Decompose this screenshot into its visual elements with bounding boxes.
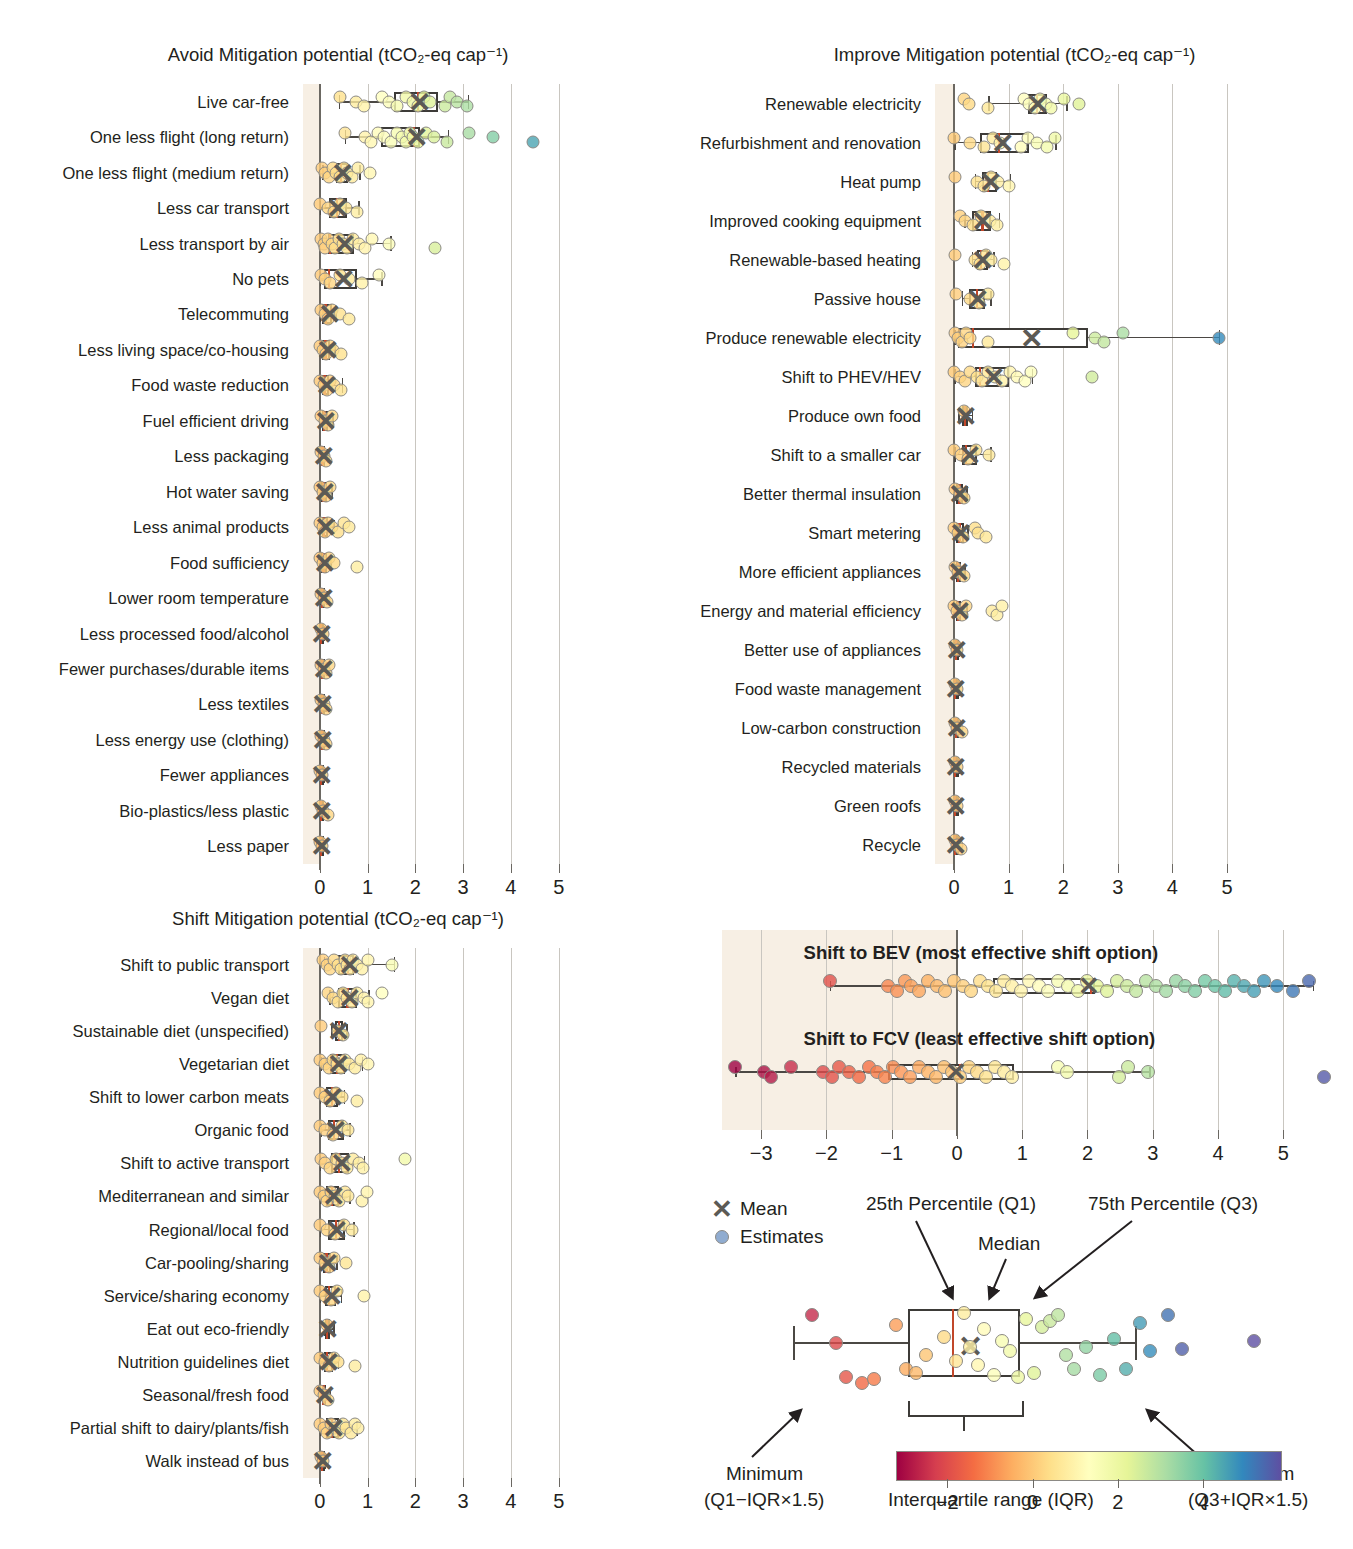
plot-improve: Renewable electricity✕Refurbishment and …	[676, 44, 1353, 904]
row-label-shift-14: Partial shift to dairy/plants/fish	[0, 1419, 289, 1438]
row-label-avoid-7: Less living space/co-housing	[0, 340, 289, 359]
row-label-shift-8: Regional/local food	[0, 1220, 289, 1239]
panel-shift: Shift Mitigation potential (tCO₂-eq cap⁻…	[0, 908, 676, 1528]
row-label-shift-9: Car-pooling/sharing	[0, 1253, 289, 1272]
estimate-point-improve-4-5	[998, 257, 1011, 270]
row-label-shift-0: Shift to public transport	[0, 955, 289, 974]
legend-sample-point-4	[867, 1372, 881, 1386]
xticklabel-improve-4: 4	[1167, 876, 1178, 899]
estimate-point-shift-14-10	[351, 1422, 364, 1435]
row-label-avoid-10: Less packaging	[0, 447, 289, 466]
xtick-shift-0	[320, 1478, 321, 1487]
estimate-point-improve-4-4	[985, 253, 998, 266]
legend-min-label-1: Minimum	[726, 1463, 803, 1485]
estimate-point-shift-11-0	[321, 1318, 334, 1331]
estimate-point-avoid-13-5	[351, 561, 364, 574]
row-label-improve-10: Better thermal insulation	[676, 484, 921, 503]
row-label-shift-13: Seasonal/fresh food	[0, 1386, 289, 1405]
estimate-point-avoid-6-5	[343, 312, 356, 325]
legend-sample-point-29	[1119, 1362, 1133, 1376]
legend-whisker-cap-max	[1135, 1326, 1137, 1360]
estimate-point-improve-6-9	[1117, 327, 1130, 340]
estimate-point-shift-9-3	[328, 1252, 341, 1265]
legend-sample-point-7	[909, 1366, 923, 1380]
legend-whisker-cap-min	[793, 1326, 795, 1360]
row-label-improve-4: Renewable-based heating	[676, 250, 921, 269]
estimate-point-bev-1-28	[1060, 1065, 1074, 1079]
row-label-avoid-14: Lower room temperature	[0, 589, 289, 608]
estimate-point-bev-1-3	[784, 1060, 798, 1074]
legend-sample-point-24	[1059, 1348, 1073, 1362]
legend-sample-point-13	[971, 1358, 985, 1372]
row-label-avoid-5: No pets	[0, 270, 289, 289]
estimate-point-avoid-4-13	[383, 237, 396, 250]
estimate-point-improve-0-8	[1045, 101, 1058, 114]
estimate-point-improve-0-1	[963, 97, 976, 110]
estimate-point-shift-8-4	[346, 1223, 359, 1236]
xtick-shift-1	[368, 1478, 369, 1487]
row-label-improve-7: Shift to PHEV/HEV	[676, 367, 921, 386]
estimate-point-improve-17-1	[951, 760, 964, 773]
xtick-bev--1	[892, 1130, 893, 1139]
estimate-point-improve-15-1	[950, 682, 963, 695]
legend-estimates-label: Estimates	[740, 1226, 823, 1248]
row-label-avoid-0: Live car-free	[0, 92, 289, 111]
estimate-point-avoid-7-5	[335, 348, 348, 361]
xtick-avoid-1	[368, 864, 369, 873]
legend-sample-point-14	[977, 1322, 991, 1336]
estimate-point-shift-6-8	[356, 1161, 369, 1174]
legend-sample-point-25	[1067, 1362, 1081, 1376]
legend-arrow-median	[990, 1259, 1006, 1297]
xtick-shift-2	[415, 1478, 416, 1487]
row-label-avoid-1: One less flight (long return)	[0, 128, 289, 147]
legend-sample-point-30	[1133, 1316, 1147, 1330]
xtick-bev--3	[761, 1130, 762, 1139]
legend-sample-point-15	[987, 1368, 1001, 1382]
whisker-cap-max-improve-8	[972, 408, 974, 422]
xticklabel-improve-2: 2	[1058, 876, 1069, 899]
row-label-improve-6: Produce renewable electricity	[676, 328, 921, 347]
row-label-shift-10: Service/sharing economy	[0, 1286, 289, 1305]
estimate-point-shift-4-5	[351, 1095, 364, 1108]
gridline-avoid-3	[463, 84, 464, 864]
estimate-point-avoid-2-10	[363, 166, 376, 179]
row-label-shift-15: Walk instead of bus	[0, 1452, 289, 1471]
estimate-point-improve-7-12	[1024, 366, 1037, 379]
row-label-improve-9: Shift to a smaller car	[676, 445, 921, 464]
legend-median-label: Median	[978, 1233, 1040, 1255]
xticklabel-bev-4: 4	[1212, 1142, 1223, 1165]
xtick-bev-3	[1153, 1130, 1154, 1139]
estimate-point-shift-0-13	[386, 958, 399, 971]
xticklabel-shift-4: 4	[505, 1490, 516, 1513]
legend-sample-point-2	[839, 1370, 853, 1384]
estimate-point-avoid-17-2	[320, 702, 333, 715]
estimate-point-bev-1-0	[728, 1060, 742, 1074]
row-label-improve-14: Better use of appliances	[676, 640, 921, 659]
estimate-point-shift-12-4	[331, 1356, 344, 1369]
xticklabel-bev-3: 3	[1147, 1142, 1158, 1165]
gridline-avoid-5	[559, 84, 560, 864]
xticklabel-avoid-5: 5	[553, 876, 564, 899]
estimate-point-avoid-8-5	[335, 383, 348, 396]
estimate-point-bev-0-43	[1270, 979, 1284, 993]
estimate-point-bev-0-42	[1257, 974, 1271, 988]
row-label-shift-6: Shift to active transport	[0, 1154, 289, 1173]
row-label-shift-1: Vegan diet	[0, 988, 289, 1007]
estimate-point-improve-6-6	[1067, 327, 1080, 340]
xtick-shift-4	[511, 1478, 512, 1487]
xtick-improve-5	[1227, 864, 1228, 873]
gridline-improve-1	[1009, 84, 1010, 864]
estimate-point-improve-14-1	[951, 643, 964, 656]
legend-sample-point-26	[1079, 1340, 1093, 1354]
legend-sample-point-12	[963, 1340, 977, 1354]
estimate-point-improve-5-0	[950, 288, 963, 301]
estimate-point-shift-1-9	[375, 987, 388, 1000]
estimate-point-avoid-14-2	[321, 596, 334, 609]
legend-sample-point-33	[1175, 1342, 1189, 1356]
estimate-point-improve-6-10	[1212, 331, 1225, 344]
estimate-point-bev-1-2	[764, 1070, 778, 1084]
xtick-avoid-3	[463, 864, 464, 873]
row-label-avoid-20: Bio-plastics/less plastic	[0, 801, 289, 820]
gridline-avoid-2	[415, 84, 416, 864]
row-label-avoid-4: Less transport by air	[0, 234, 289, 253]
